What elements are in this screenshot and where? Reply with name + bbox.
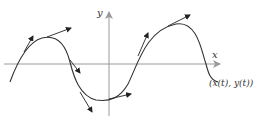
- x-axis-label: x: [212, 49, 218, 60]
- tangent-arrow: [47, 28, 71, 37]
- tangent-arrow: [168, 15, 190, 26]
- parametric-curve: [10, 24, 218, 101]
- y-axis-label: y: [96, 7, 103, 18]
- curve-label: (x(t), y(t)): [209, 78, 254, 88]
- parametric-curve-diagram: x y (x(t), y(t)): [0, 0, 256, 123]
